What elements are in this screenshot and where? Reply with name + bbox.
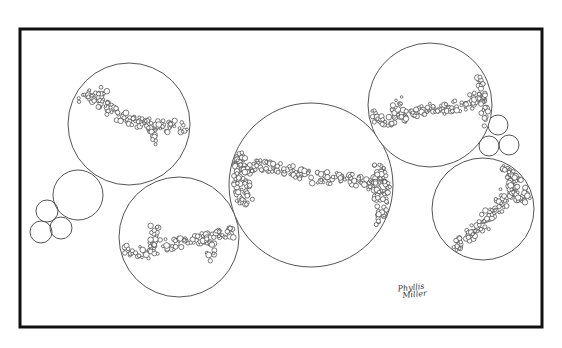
- bubble: [240, 198, 244, 202]
- bubble: [525, 193, 531, 199]
- bubble: [279, 162, 283, 166]
- bubble: [252, 162, 255, 165]
- bubble: [354, 183, 359, 188]
- bubble: [400, 102, 403, 105]
- bubble: [240, 188, 243, 191]
- bubble: [381, 118, 385, 122]
- bubble: [482, 116, 487, 121]
- bubble: [515, 195, 520, 200]
- bubble: [137, 254, 141, 258]
- bubble: [348, 175, 351, 178]
- bubble: [383, 193, 386, 196]
- bubble: [144, 120, 147, 123]
- bubble: [316, 182, 319, 185]
- bubble: [205, 242, 208, 245]
- bubble: [377, 190, 381, 194]
- bubble: [141, 256, 144, 259]
- bubble: [163, 123, 166, 126]
- bubble: [92, 99, 96, 103]
- bubble: [147, 126, 151, 130]
- bubble: [362, 182, 368, 188]
- bubble: [388, 185, 391, 188]
- bubble: [153, 247, 156, 250]
- bubble: [376, 212, 381, 217]
- bubble: [413, 114, 416, 117]
- bubble: [373, 181, 378, 186]
- bubble: [149, 121, 153, 125]
- bubble: [477, 97, 481, 101]
- bubble: [499, 188, 502, 191]
- bubble: [471, 233, 474, 236]
- bubble: [468, 93, 472, 97]
- bubble: [371, 110, 374, 113]
- bubble: [156, 122, 162, 128]
- bubble: [134, 251, 138, 255]
- bubble: [131, 116, 135, 120]
- bubble: [186, 128, 189, 131]
- bubble: [173, 244, 178, 249]
- bubble: [380, 197, 385, 202]
- bubble: [140, 123, 143, 126]
- bubble: [484, 216, 489, 221]
- bubble: [183, 239, 186, 242]
- bubble: [352, 178, 357, 183]
- bubble: [478, 75, 482, 79]
- bubble: [110, 111, 113, 114]
- bubble: [165, 130, 170, 135]
- bubble: [510, 188, 513, 191]
- bubble: [212, 252, 215, 255]
- bubble: [372, 120, 376, 124]
- bubble: [508, 183, 514, 189]
- bubble: [522, 200, 527, 205]
- bubble: [452, 246, 455, 249]
- bubble: [243, 181, 247, 185]
- bubble: [143, 252, 149, 258]
- bubble: [296, 173, 300, 177]
- signature-last-name: Miller: [402, 290, 427, 300]
- bubble: [309, 175, 314, 180]
- bubble: [383, 180, 387, 184]
- bubble: [96, 105, 101, 110]
- bubble: [494, 209, 497, 212]
- large-circle-group-3: [229, 103, 393, 267]
- bubble: [88, 89, 91, 92]
- bubble: [245, 193, 250, 198]
- bubble: [425, 110, 428, 113]
- bubble: [154, 139, 157, 142]
- bubble: [453, 99, 457, 103]
- bubble: [231, 235, 237, 241]
- bubble: [283, 170, 286, 173]
- bubble: [173, 239, 177, 243]
- bubble: [106, 101, 110, 105]
- artwork-canvas: [0, 0, 562, 348]
- bubble: [459, 240, 463, 244]
- bubble: [518, 178, 523, 183]
- bubble: [123, 110, 129, 116]
- bubble: [238, 202, 241, 205]
- bubble: [373, 163, 377, 167]
- large-circle-group-1: [68, 63, 190, 185]
- bubble: [140, 247, 146, 253]
- bubble: [376, 196, 381, 201]
- bubble: [375, 204, 380, 209]
- bubble: [479, 227, 483, 231]
- bubble: [131, 253, 134, 256]
- bubble: [474, 230, 477, 233]
- bubble: [218, 235, 221, 238]
- bubble: [507, 170, 511, 174]
- bubble: [156, 252, 159, 255]
- bubble: [387, 182, 390, 185]
- bubble: [460, 104, 463, 107]
- bubble: [482, 124, 486, 128]
- bubble: [502, 167, 507, 172]
- bubble: [205, 237, 209, 241]
- bubble: [130, 123, 134, 127]
- bubble: [500, 210, 504, 214]
- bubble: [138, 116, 141, 119]
- bubble: [325, 170, 330, 175]
- large-circle-group-2: [119, 177, 239, 297]
- bubble: [378, 163, 381, 166]
- bubble: [466, 235, 470, 239]
- bubble: [404, 109, 408, 113]
- bubble: [254, 168, 257, 171]
